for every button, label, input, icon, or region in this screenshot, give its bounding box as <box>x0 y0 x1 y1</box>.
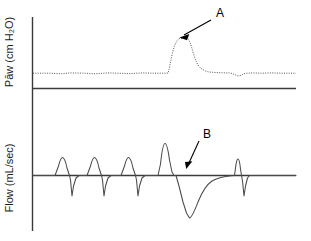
annotation-a-arrow-line <box>184 20 211 35</box>
paw-waveform-trace <box>33 38 296 76</box>
annotation-b: B <box>185 127 211 169</box>
flow-axis-label: Flow (mL/sec) <box>3 143 15 212</box>
annotation-a: A <box>180 6 225 40</box>
annotation-b-label: B <box>203 127 211 141</box>
annotation-b-arrow-line <box>189 141 200 164</box>
annotation-b-arrow-head <box>185 161 192 169</box>
flow-waveform-trace <box>33 144 296 219</box>
paw-axis-label: Pāw (cm H₂O) <box>3 17 15 87</box>
annotation-a-label: A <box>216 6 224 20</box>
figure-container: Pāw (cm H₂O) A Flow (mL/sec) B <box>0 0 311 241</box>
waveform-chart: Pāw (cm H₂O) A Flow (mL/sec) B <box>0 0 311 241</box>
